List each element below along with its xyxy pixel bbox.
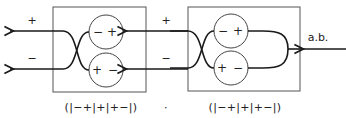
stage-1-cell-bottom-left-sign: + bbox=[92, 63, 102, 77]
stage-1-cross-top bbox=[53, 32, 89, 69]
middle-label-plus: + bbox=[161, 14, 170, 27]
middle-label-minus: − bbox=[161, 52, 170, 65]
stage-2-cell-top-left-sign: − bbox=[218, 24, 228, 38]
output-label-minus: − bbox=[27, 52, 36, 65]
stage-2-cell-bottom-right-sign: − bbox=[233, 61, 243, 75]
split-wire-top bbox=[248, 31, 288, 49]
stage-2-cell-bottom-left-sign: + bbox=[217, 61, 227, 75]
stage-2-cell-top-right-sign: + bbox=[233, 24, 243, 38]
output-label-plus: + bbox=[27, 14, 36, 27]
stage-1-cell-bottom-right-sign: − bbox=[108, 63, 118, 77]
stage-1-caption: (|−+|+|+−|) bbox=[65, 101, 138, 114]
caption-separator: · bbox=[164, 101, 168, 114]
stage-1-cell-top-left-sign: − bbox=[93, 25, 103, 39]
split-wire-bottom bbox=[248, 49, 288, 68]
stage-2-caption: (|−+|+|+−|) bbox=[209, 101, 282, 114]
stage-2-cross-bottom bbox=[170, 31, 214, 68]
input-label: a.b. bbox=[308, 31, 329, 44]
circuit-diagram: − + + − − + + − + − + − a.b. (|−+|+|+−|)… bbox=[0, 0, 346, 118]
stage-2-cross-top bbox=[170, 31, 214, 68]
stage-1-cell-top-right-sign: + bbox=[107, 25, 117, 39]
